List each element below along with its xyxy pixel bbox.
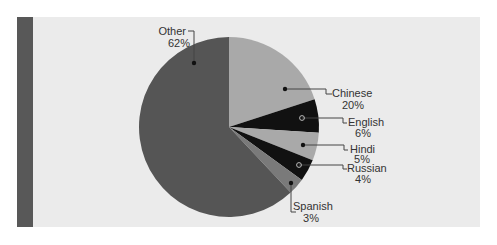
label-chinese-pct: 20% xyxy=(342,99,364,111)
label-other-pct: 62% xyxy=(168,37,190,49)
pie-chart: Other 62% Chinese 20% English 6% Hindi 5… xyxy=(0,0,497,245)
marker-other xyxy=(192,61,196,65)
label-english-pct: 6% xyxy=(355,127,371,139)
label-chinese-name: Chinese xyxy=(332,87,372,99)
marker-hindi xyxy=(301,143,305,147)
label-spanish-name: Spanish xyxy=(293,200,333,212)
marker-chinese xyxy=(283,87,287,91)
pie-slices xyxy=(139,37,319,217)
label-spanish-pct: 3% xyxy=(303,212,319,224)
label-other-name: Other xyxy=(158,25,186,37)
marker-spanish xyxy=(289,181,293,185)
label-russian-pct: 4% xyxy=(355,173,371,185)
